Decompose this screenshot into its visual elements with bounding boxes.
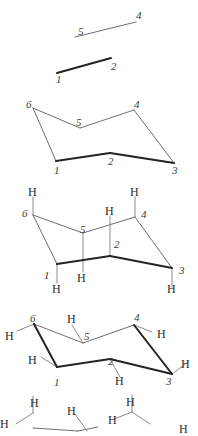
hydrogen-atom-label: H [30, 397, 39, 409]
hydrogen-atom-label: H [115, 375, 124, 387]
hydrogen-atom-label: H [67, 405, 76, 417]
hydrogen-atom-label: H [52, 283, 61, 295]
carbon-number-label: 3 [179, 265, 185, 276]
carbon-number-label: 1 [54, 377, 60, 388]
carbon-number-label: 6 [26, 99, 32, 110]
hydrogen-atom-label: H [181, 358, 190, 370]
ring-bond-back [78, 427, 98, 431]
equatorial-hydrogen-bond [132, 412, 150, 424]
carbon-number-label: 4 [134, 99, 140, 110]
hydrogen-atom-label: H [130, 186, 139, 198]
hydrogen-atom-label: H [0, 418, 9, 430]
carbon-number-label: 2 [108, 356, 114, 367]
hydrogen-atom-label: H [108, 414, 117, 426]
equatorial-hydrogen-bond [75, 414, 87, 431]
hydrogen-atom-label: H [126, 396, 135, 408]
carbon-number-label: 6 [22, 208, 28, 219]
carbon-number-label: 4 [134, 312, 140, 323]
hydrogen-atom-label: H [105, 205, 114, 217]
ring-bond-back [33, 428, 78, 431]
hydrogen-atom-label: H [28, 354, 37, 366]
carbon-number-label: 4 [141, 209, 147, 220]
hydrogen-atom-label: H [157, 328, 166, 340]
hydrogen-atom-label: H [5, 330, 14, 342]
carbon-number-label: 2 [114, 239, 120, 250]
carbon-number-label: 5 [76, 117, 82, 128]
carbon-number-label: 1 [54, 165, 60, 176]
hydrogen-atom-label: H [28, 186, 37, 198]
carbon-number-label: 5 [84, 331, 90, 342]
carbon-number-label: 5 [80, 224, 86, 235]
carbon-number-label: 5 [78, 26, 84, 37]
carbon-number-label: 6 [30, 313, 36, 324]
carbon-number-label: 2 [111, 61, 117, 72]
carbon-number-label: 1 [56, 74, 62, 85]
equatorial-hydrogen-bond [16, 413, 33, 424]
carbon-number-label: 3 [166, 376, 172, 387]
hydrogen-atom-label: H [179, 423, 188, 435]
hydrogen-atom-label: H [77, 272, 86, 284]
carbon-number-label: 4 [136, 10, 142, 21]
carbon-number-label: 3 [172, 165, 178, 176]
hydrogen-atom-label: H [167, 283, 176, 295]
hydrogen-atom-label: H [67, 313, 76, 325]
carbon-number-label: 1 [44, 270, 50, 281]
carbon-number-label: 2 [108, 156, 114, 167]
